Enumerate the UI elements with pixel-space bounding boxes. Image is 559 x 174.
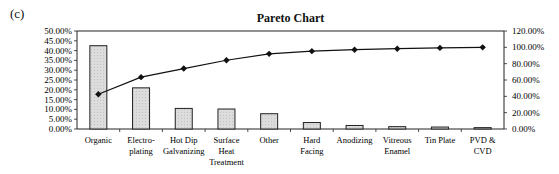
category-label: Tin Plate	[425, 135, 456, 145]
category-label: Facing	[300, 146, 324, 156]
category-label: Treatment	[209, 157, 244, 167]
category-label: PVD &	[470, 135, 496, 145]
cumulative-marker	[394, 46, 400, 52]
cumulative-marker	[437, 45, 443, 51]
bar	[261, 114, 278, 129]
category-label: CVD	[474, 146, 492, 156]
category-label: plating	[129, 146, 153, 156]
left-tick-label: 15.00%	[44, 95, 72, 105]
bar-series	[90, 46, 491, 129]
right-tick-label: 60.00%	[512, 75, 540, 85]
left-tick-label: 0.00%	[49, 124, 73, 134]
category-label: Hot Dip	[170, 135, 198, 145]
cumulative-marker	[223, 57, 229, 63]
left-y-axis: 0.00%5.00%10.00%15.00%20.00%25.00%30.00%…	[44, 26, 77, 134]
x-axis-categories: OrganicElectro-platingHot DipGalvanizing…	[85, 129, 496, 167]
left-tick-label: 25.00%	[44, 75, 72, 85]
left-tick-label: 45.00%	[44, 36, 72, 46]
left-tick-label: 35.00%	[44, 55, 72, 65]
left-tick-label: 5.00%	[49, 114, 73, 124]
category-label: Organic	[85, 135, 112, 145]
cumulative-marker	[138, 74, 144, 80]
category-label: Heat	[218, 146, 235, 156]
cumulative-marker	[266, 51, 272, 57]
category-label: Hard	[303, 135, 321, 145]
left-tick-label: 20.00%	[44, 85, 72, 95]
left-tick-label: 50.00%	[44, 26, 72, 36]
category-label: Other	[259, 135, 279, 145]
right-tick-label: 40.00%	[512, 91, 540, 101]
cumulative-marker	[309, 48, 315, 54]
bar	[90, 46, 107, 129]
bar	[474, 128, 491, 129]
cumulative-marker	[479, 44, 485, 50]
cumulative-marker	[351, 47, 357, 53]
right-tick-label: 0.00%	[512, 124, 536, 134]
left-tick-label: 30.00%	[44, 65, 72, 75]
right-tick-label: 120.00%	[512, 26, 545, 36]
bar	[218, 109, 235, 129]
category-label: Electro-	[127, 135, 155, 145]
right-tick-label: 20.00%	[512, 108, 540, 118]
category-label: Surface	[213, 135, 239, 145]
left-tick-label: 40.00%	[44, 46, 72, 56]
right-tick-label: 80.00%	[512, 59, 540, 69]
category-label: Vitreous	[383, 135, 412, 145]
pareto-chart: 0.00%5.00%10.00%15.00%20.00%25.00%30.00%…	[0, 0, 559, 174]
right-tick-label: 100.00%	[512, 42, 545, 52]
bar	[175, 108, 192, 129]
right-y-axis: 0.00%20.00%40.00%60.00%80.00%100.00%120.…	[504, 26, 545, 134]
bar	[346, 125, 363, 129]
cumulative-line-series	[95, 44, 486, 97]
cumulative-marker	[181, 65, 187, 71]
category-label: Anodizing	[337, 135, 374, 145]
left-tick-label: 10.00%	[44, 104, 72, 114]
bar	[303, 123, 320, 129]
bar	[133, 88, 150, 129]
category-label: Galvanizing	[163, 146, 205, 156]
category-label: Enamel	[384, 146, 411, 156]
bar	[431, 127, 448, 129]
bar	[389, 127, 406, 129]
